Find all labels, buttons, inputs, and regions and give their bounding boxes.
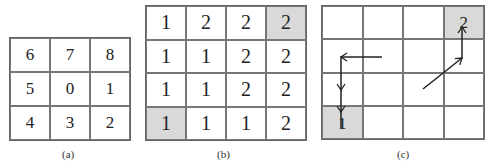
grid-c-path-map: 21 — [321, 5, 485, 140]
grid-b-cell-r0c1: 2 — [186, 6, 226, 40]
grid-b-cell-r1c1: 1 — [186, 40, 226, 74]
grid-c-cell-r3c0: 1 — [322, 106, 363, 139]
grid-b-cell-r3c3: 2 — [266, 107, 306, 141]
grid-a-cell-r2c1: 3 — [50, 106, 90, 140]
grid-c-cell-r2c0 — [322, 73, 363, 106]
grid-a-cell-r0c1: 7 — [50, 38, 90, 72]
grid-b-cell-r1c3: 2 — [266, 40, 306, 74]
caption-c: (c) — [397, 148, 409, 160]
grid-a-cell-r0c2: 8 — [90, 38, 130, 72]
grid-a-cell-r1c1: 0 — [50, 72, 90, 106]
grid-b-cell-r0c2: 2 — [226, 6, 266, 40]
grid-b-label-map: 1222112211221112 — [145, 5, 307, 141]
grid-c-cell-r1c3 — [444, 39, 485, 72]
grid-c-cell-r1c1 — [363, 39, 404, 72]
grid-b-cell-r2c3: 2 — [266, 73, 306, 107]
grid-b-cell-r1c0: 1 — [146, 40, 186, 74]
grid-a-cell-r0c0: 6 — [10, 38, 50, 72]
grid-b-cell-r3c1: 1 — [186, 107, 226, 141]
grid-c-cell-r0c3: 2 — [444, 6, 485, 39]
grid-c-cell-r0c0 — [322, 6, 363, 39]
grid-b-cell-r0c0: 1 — [146, 6, 186, 40]
grid-c-cell-r2c2 — [403, 73, 444, 106]
grid-b-cell-r2c0: 1 — [146, 73, 186, 107]
caption-a: (a) — [62, 148, 74, 160]
grid-b-cell-r0c3: 2 — [266, 6, 306, 40]
grid-a-cell-r1c0: 5 — [10, 72, 50, 106]
grid-c-cell-r0c2 — [403, 6, 444, 39]
grid-c-cell-r0c1 — [363, 6, 404, 39]
grid-c-cell-r1c0 — [322, 39, 363, 72]
grid-a-cell-r1c2: 1 — [90, 72, 130, 106]
grid-b-cell-r1c2: 2 — [226, 40, 266, 74]
grid-b-cell-r3c2: 1 — [226, 107, 266, 141]
grid-a-direction-codes: 678501432 — [9, 37, 131, 141]
grid-a-cell-r2c0: 4 — [10, 106, 50, 140]
grid-c-cell-r2c1 — [363, 73, 404, 106]
grid-b-cell-r2c2: 2 — [226, 73, 266, 107]
grid-a-cell-r2c2: 2 — [90, 106, 130, 140]
grid-c-cell-r3c1 — [363, 106, 404, 139]
grid-c-cell-r3c3 — [444, 106, 485, 139]
grid-c-cell-r3c2 — [403, 106, 444, 139]
grid-c-cell-r2c3 — [444, 73, 485, 106]
caption-b: (b) — [217, 148, 230, 160]
grid-b-cell-r3c0: 1 — [146, 107, 186, 141]
grid-c-cell-r1c2 — [403, 39, 444, 72]
grid-b-cell-r2c1: 1 — [186, 73, 226, 107]
